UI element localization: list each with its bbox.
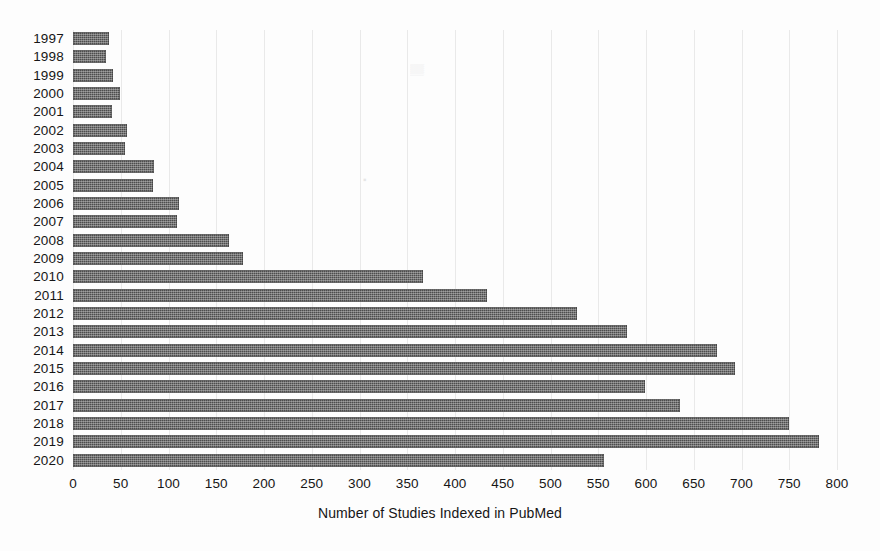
bar xyxy=(73,124,127,137)
gridline xyxy=(837,30,838,470)
y-axis-tick-label: 2005 xyxy=(0,177,64,195)
x-axis-tick-label: 300 xyxy=(348,474,371,494)
x-axis-tick-label: 350 xyxy=(396,474,419,494)
y-axis-tick-label: 2012 xyxy=(0,305,64,323)
bar xyxy=(73,270,423,283)
x-axis-tick-label: 450 xyxy=(491,474,514,494)
y-axis-tick-label: 2007 xyxy=(0,213,64,231)
bar xyxy=(73,307,577,320)
bar xyxy=(73,234,229,247)
x-axis-tick-label: 150 xyxy=(205,474,228,494)
bar xyxy=(73,417,789,430)
bar xyxy=(73,454,604,467)
bar xyxy=(73,197,179,210)
bar-row xyxy=(73,305,837,323)
x-axis-tick-label: 50 xyxy=(113,474,128,494)
bar-row xyxy=(73,177,837,195)
y-axis-tick-label: 2019 xyxy=(0,433,64,451)
x-axis-tick-label: 700 xyxy=(730,474,753,494)
bar-row xyxy=(73,323,837,341)
bar-row xyxy=(73,85,837,103)
bar xyxy=(73,32,109,45)
bar xyxy=(73,179,153,192)
x-axis-ticks: 0501001502002503003504004505005506006507… xyxy=(73,474,837,496)
bar xyxy=(73,105,112,118)
y-axis-tick-label: 2016 xyxy=(0,378,64,396)
bar-chart: 1997199819992000200120022003200420052006… xyxy=(0,0,880,551)
bar xyxy=(73,289,487,302)
bar xyxy=(73,252,243,265)
bar xyxy=(73,435,819,448)
bar-row xyxy=(73,415,837,433)
x-axis-tick-label: 500 xyxy=(539,474,562,494)
y-axis-tick-label: 2003 xyxy=(0,140,64,158)
bar-row xyxy=(73,250,837,268)
y-axis-tick-label: 2008 xyxy=(0,232,64,250)
y-axis-tick-label: 2011 xyxy=(0,287,64,305)
bar xyxy=(73,215,177,228)
bar-row xyxy=(73,268,837,286)
bar-row xyxy=(73,122,837,140)
bar xyxy=(73,399,680,412)
bar-row xyxy=(73,342,837,360)
y-axis-tick-label: 2013 xyxy=(0,323,64,341)
x-axis-tick-label: 0 xyxy=(69,474,77,494)
bar-row xyxy=(73,158,837,176)
bar-row xyxy=(73,360,837,378)
bar xyxy=(73,380,645,393)
y-axis-tick-label: 2000 xyxy=(0,85,64,103)
y-axis-tick-label: 1997 xyxy=(0,30,64,48)
x-axis-tick-label: 750 xyxy=(778,474,801,494)
x-axis-tick-label: 200 xyxy=(252,474,275,494)
y-axis-tick-label: 2010 xyxy=(0,268,64,286)
bar xyxy=(73,344,717,357)
bar-row xyxy=(73,48,837,66)
bar xyxy=(73,69,113,82)
y-axis-tick-label: 2014 xyxy=(0,342,64,360)
y-axis-tick-label: 2002 xyxy=(0,122,64,140)
bar-row xyxy=(73,67,837,85)
y-axis-tick-label: 2001 xyxy=(0,103,64,121)
x-axis-tick-label: 800 xyxy=(825,474,848,494)
y-axis-tick-label: 2009 xyxy=(0,250,64,268)
y-axis-tick-label: 2015 xyxy=(0,360,64,378)
bar xyxy=(73,50,106,63)
bar-row xyxy=(73,287,837,305)
bar-row xyxy=(73,397,837,415)
y-axis-tick-label: 2017 xyxy=(0,397,64,415)
y-axis-tick-label: 2020 xyxy=(0,452,64,470)
bar-row xyxy=(73,378,837,396)
y-axis-tick-label: 1999 xyxy=(0,67,64,85)
bar-row xyxy=(73,103,837,121)
bar-row xyxy=(73,452,837,470)
bar xyxy=(73,160,154,173)
y-axis-labels: 1997199819992000200120022003200420052006… xyxy=(0,30,68,470)
bar-row xyxy=(73,213,837,231)
bar-row xyxy=(73,140,837,158)
y-axis-tick-label: 2004 xyxy=(0,158,64,176)
bar xyxy=(73,325,627,338)
x-axis-tick-label: 400 xyxy=(443,474,466,494)
y-axis-tick-label: 1998 xyxy=(0,48,64,66)
x-axis-tick-label: 550 xyxy=(587,474,610,494)
y-axis-tick-label: 2006 xyxy=(0,195,64,213)
x-axis-tick-label: 100 xyxy=(157,474,180,494)
plot-area xyxy=(73,30,837,470)
bar-row xyxy=(73,232,837,250)
bar xyxy=(73,362,735,375)
x-axis-tick-label: 650 xyxy=(682,474,705,494)
bar-row xyxy=(73,195,837,213)
x-axis-tick-label: 250 xyxy=(300,474,323,494)
bar xyxy=(73,87,120,100)
bar-row xyxy=(73,30,837,48)
bar-row xyxy=(73,433,837,451)
bar xyxy=(73,142,125,155)
x-axis-tick-label: 600 xyxy=(634,474,657,494)
y-axis-tick-label: 2018 xyxy=(0,415,64,433)
x-axis-title: Number of Studies Indexed in PubMed xyxy=(0,505,880,521)
